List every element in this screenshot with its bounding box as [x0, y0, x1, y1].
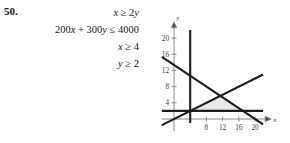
x-axis-label: x — [272, 116, 276, 123]
y-tick-label: 20 — [162, 35, 170, 43]
x-tick-label: 8 — [205, 124, 209, 132]
equation-line: y ≥ 2 — [0, 55, 139, 72]
constraint-line — [162, 74, 263, 125]
equation-line: x ≥ 4 — [0, 38, 139, 55]
constraint-line — [162, 57, 263, 124]
y-tick-label: 4 — [165, 99, 169, 107]
y-tick-label: 8 — [165, 83, 169, 91]
y-axis-arrowhead — [171, 22, 176, 28]
x-tick-label: 16 — [235, 124, 243, 132]
problem-statement: 50. x ≥ 2y 200x + 300y ≤ 4000 x ≥ 4 y ≥ … — [0, 0, 146, 143]
equation-line: 200x + 300y ≤ 4000 — [0, 21, 139, 38]
linear-programming-graph: 812162048121620 x y — [146, 0, 290, 143]
x-axis-arrowhead — [265, 116, 271, 121]
x-tick-label: 20 — [251, 124, 259, 132]
graph-panel: 812162048121620 x y — [146, 0, 290, 143]
x-tick-label: 12 — [219, 124, 227, 132]
constraint-lines — [162, 30, 263, 125]
equation-list: x ≥ 2y 200x + 300y ≤ 4000 x ≥ 4 y ≥ 2 — [0, 4, 142, 72]
y-axis-label: y — [176, 14, 180, 21]
y-tick-label: 12 — [162, 67, 170, 75]
equation-line: x ≥ 2y — [0, 4, 139, 21]
figure-container: 50. x ≥ 2y 200x + 300y ≤ 4000 x ≥ 4 y ≥ … — [0, 0, 290, 143]
